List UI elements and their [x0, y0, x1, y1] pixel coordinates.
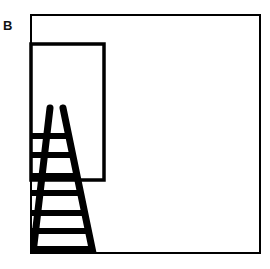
ladder-rung	[31, 246, 93, 252]
ladder-rung	[31, 228, 89, 234]
ladder-rung	[31, 173, 78, 179]
ladder-rung	[31, 152, 73, 158]
room-scene-diagram	[0, 0, 270, 269]
